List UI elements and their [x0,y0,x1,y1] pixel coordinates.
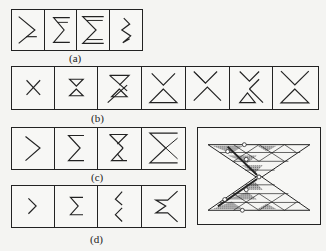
label-c: (c) [91,171,103,183]
label-d: (d) [90,233,103,245]
label-b: (b) [91,112,104,124]
small-sigma-icon [55,186,98,227]
small-chevron-icon [12,186,54,227]
label-a: (a) [69,52,81,64]
lattice-panel [197,127,321,225]
cell-b5 [186,67,230,109]
cell-d2 [55,186,99,227]
cell-d4 [142,186,185,227]
sigma-icon [55,128,98,169]
cell-b7 [273,67,318,109]
zigzag-icon [110,10,142,50]
sigma-triangle-icon [98,128,141,169]
double-chevron-left-icon [98,186,141,227]
row-d [11,185,186,228]
v-triangle-icon [142,67,185,109]
cell-c4 [142,128,185,169]
row-a [11,9,143,51]
cell-a3 [77,10,110,50]
cell-b1 [12,67,55,109]
cell-c3 [98,128,142,169]
cell-a2 [45,10,78,50]
cell-a1 [12,10,45,50]
cell-c2 [55,128,99,169]
cell-b4 [142,67,186,109]
cell-a4 [110,10,142,50]
row-c [11,127,186,170]
cell-d3 [98,186,142,227]
split-sigma-icon [142,186,185,227]
small-hourglass-icon [55,67,98,109]
row-b [11,66,319,110]
sigma-open-icon [12,10,44,50]
sigma-double-icon [77,10,109,50]
hourglass-lattice-figure [198,128,320,224]
cell-d1 [12,186,55,227]
wide-sigma-icon [142,128,185,169]
hourglass-icon [273,67,318,109]
double-chevron-icon [186,67,229,109]
cell-b3 [98,67,142,109]
cell-b2 [55,67,99,109]
chevron-right-icon [12,128,54,169]
hourglass-slash-icon [98,67,141,109]
cell-b6 [230,67,274,109]
sigma-icon [45,10,77,50]
chevron-triangle-icon [230,67,273,109]
cell-c1 [12,128,55,169]
x-cross-icon [12,67,54,109]
